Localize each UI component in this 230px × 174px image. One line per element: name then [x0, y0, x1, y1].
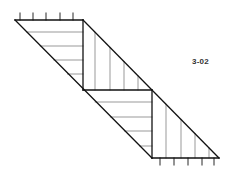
hatch-lines: [27, 32, 209, 158]
diagram-outline: [15, 20, 219, 158]
outline-right-diagonal: [83, 20, 219, 158]
support-ticks: [20, 13, 214, 165]
stepped-hatched-diagram: [0, 0, 230, 174]
figure-label: 3-02: [192, 57, 209, 66]
